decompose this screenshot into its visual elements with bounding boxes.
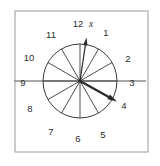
hour-label-10: 10	[24, 52, 35, 63]
hour-label-2: 2	[125, 53, 130, 64]
hour-spoke	[48, 63, 80, 82]
hour-label-7: 7	[48, 126, 53, 137]
hour-label-3: 3	[129, 77, 134, 88]
vector-hour-hand-arrowhead	[107, 95, 117, 102]
vector-x-label: x	[88, 19, 94, 29]
vectors-group	[80, 38, 117, 102]
hour-label-5: 5	[100, 129, 105, 140]
hour-spoke	[62, 49, 81, 81]
clock-diagram-figure: 121234567891011 x	[0, 0, 160, 166]
hour-label-1: 1	[103, 27, 108, 38]
hour-label-6: 6	[75, 133, 80, 144]
hour-label-8: 8	[27, 103, 32, 114]
hour-label-4: 4	[121, 100, 126, 111]
hour-label-11: 11	[46, 29, 56, 40]
clock-center-hub	[78, 79, 82, 83]
vector-x-arrowhead	[83, 38, 87, 46]
hour-spoke	[62, 81, 81, 113]
hour-spoke	[80, 63, 112, 82]
hour-label-12: 12	[73, 18, 84, 29]
hour-label-9: 9	[20, 77, 25, 88]
hour-spoke	[48, 81, 80, 100]
clock-diagram-svg: 121234567891011 x	[0, 0, 160, 166]
